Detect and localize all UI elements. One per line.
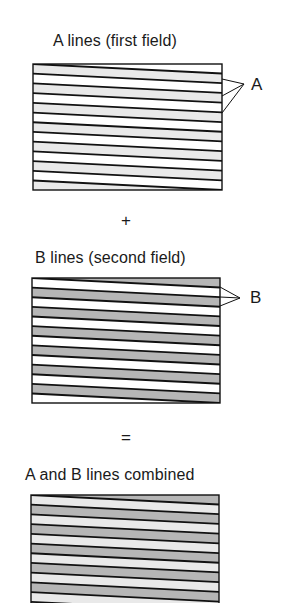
combined-striped-frame [0, 0, 281, 603]
